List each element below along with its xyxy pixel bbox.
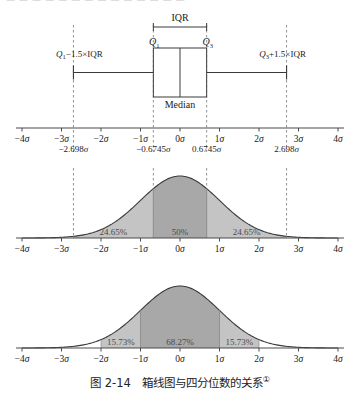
figure-caption: 图 2-14 箱线图与四分位数的关系①	[0, 372, 360, 391]
boxplot-axis-tick-label: −1σ	[133, 134, 148, 144]
quartile-value-label: −2.698σ	[59, 144, 89, 154]
quartile-normal-axis-tick-label: 2σ	[254, 244, 264, 254]
sigma-normal-region-label: 15.73%	[225, 337, 253, 347]
quartile-normal-axis-tick-label: −4σ	[15, 244, 30, 254]
boxplot-axis-tick-label: −2σ	[94, 134, 109, 144]
sigma-normal-axis-tick-label: 4σ	[333, 354, 343, 364]
boxplot-axis-tick-label: 4σ	[333, 134, 343, 144]
sigma-normal-axis-tick-label: −3σ	[54, 354, 69, 364]
quartile-normal-region-label: 24.65%	[233, 227, 261, 237]
quartile-normal-axis-tick-label: −1σ	[133, 244, 148, 254]
quartile-normal-region-label: 24.65%	[100, 227, 128, 237]
median-label: Median	[165, 99, 196, 110]
quartile-normal-region-label: 50%	[172, 227, 189, 237]
lower-fence-label: Q1−1.5×IQR	[56, 49, 103, 61]
sigma-normal-region-label: 15.73%	[107, 337, 135, 347]
boxplot-axis-tick-label: 0σ	[175, 134, 185, 144]
boxplot-axis-tick-label: 3σ	[294, 134, 304, 144]
quartile-normal-axis-tick-label: 0σ	[175, 244, 185, 254]
sigma-normal-region-label: 68.27%	[166, 337, 194, 347]
sigma-normal-axis-tick-label: −2σ	[94, 354, 109, 364]
quartile-normal-axis-tick-label: 3σ	[294, 244, 304, 254]
boxplot-axis-tick-label: 1σ	[215, 134, 225, 144]
q1-label: Q1	[149, 36, 159, 49]
sigma-normal-axis-tick-label: 3σ	[294, 354, 304, 364]
sigma-normal-axis-tick-label: −4σ	[15, 354, 30, 364]
caption-footnote-marker: ①	[263, 375, 270, 384]
caption-number: 图 2-14	[90, 376, 131, 390]
quartile-value-label: 0.6745σ	[192, 144, 222, 154]
boxplot-axis-tick-label: −4σ	[15, 134, 30, 144]
sigma-normal-axis-tick-label: 1σ	[215, 354, 225, 364]
quartile-normal-axis-tick-label: −3σ	[54, 244, 69, 254]
q3-label: Q3	[202, 36, 212, 49]
iqr-label: IQR	[171, 12, 189, 23]
statistics-diagram: IQRQ1Q3MedianQ1−1.5×IQRQ3+1.5×IQR−4σ−3σ−…	[0, 0, 360, 407]
quartile-value-label: −0.6745σ	[136, 144, 171, 154]
figure-container: — — — — — — — — — — — — — — IQRQ1Q3Media…	[0, 0, 360, 407]
sigma-normal-axis-tick-label: 2σ	[254, 354, 264, 364]
quartile-value-label: 2.698σ	[274, 144, 299, 154]
caption-title: 箱线图与四分位数的关系	[142, 376, 263, 390]
sigma-normal-axis-tick-label: −1σ	[133, 354, 148, 364]
boxplot-axis-tick-label: −3σ	[54, 134, 69, 144]
boxplot-axis-tick-label: 2σ	[254, 134, 264, 144]
quartile-normal-axis-tick-label: 1σ	[215, 244, 225, 254]
sigma-normal-axis-tick-label: 0σ	[175, 354, 185, 364]
quartile-normal-axis-tick-label: −2σ	[94, 244, 109, 254]
quartile-normal-axis-tick-label: 4σ	[333, 244, 343, 254]
upper-fence-label: Q3+1.5×IQR	[259, 49, 306, 61]
